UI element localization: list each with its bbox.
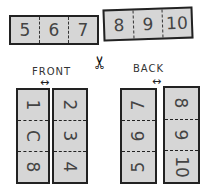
page-cell: 10 xyxy=(165,151,198,182)
page-cell: 9 xyxy=(165,120,198,152)
page-cell: 1 xyxy=(18,90,48,121)
back-arrow-icon: ↔ xyxy=(152,75,161,88)
back-right-column: 8 9 10 xyxy=(163,86,200,184)
page-cell: 7 xyxy=(122,90,155,121)
strip-cell: 7 xyxy=(69,17,97,43)
top-strip-right: 8 9 10 xyxy=(102,6,193,41)
front-left-column: 1 C 8 xyxy=(16,88,50,184)
front-right-column: 2 3 4 xyxy=(52,88,88,184)
page-cell: 3 xyxy=(54,121,86,152)
strip-cell: 5 xyxy=(11,17,40,43)
page-cell: 8 xyxy=(18,152,48,182)
page-cell: 4 xyxy=(54,152,86,182)
strip-cell: 6 xyxy=(40,17,69,43)
scissors-icon: ✂ xyxy=(89,55,110,70)
back-left-column: 7 6 5 xyxy=(120,88,157,184)
page-cell: 6 xyxy=(122,121,155,152)
page-cell: 8 xyxy=(165,88,198,120)
strip-cell: 9 xyxy=(134,9,164,38)
page-cell: C xyxy=(18,121,48,152)
strip-cell: 8 xyxy=(105,10,135,39)
top-strip-left: 5 6 7 xyxy=(9,15,99,45)
back-label: BACK xyxy=(133,63,164,74)
page-cell: 2 xyxy=(54,90,86,121)
strip-cell: 10 xyxy=(163,9,192,38)
page-cell: 5 xyxy=(122,152,155,182)
front-label: FRONT xyxy=(32,66,71,77)
